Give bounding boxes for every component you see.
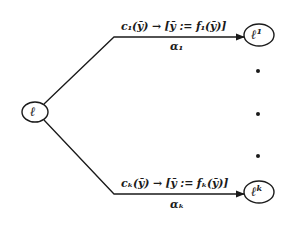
source-node-text: ℓ xyxy=(30,104,36,119)
ellipsis-dot xyxy=(256,69,260,73)
edge-alpha-1-name: α₁ xyxy=(170,41,183,52)
ellipsis-dot xyxy=(256,112,260,116)
target-node-k-label: ℓk xyxy=(251,184,262,198)
ellipsis-dot xyxy=(256,154,260,158)
edge-alpha-1 xyxy=(44,37,244,104)
edge-alpha-k-name: αₖ xyxy=(170,199,184,210)
target-node-1-label: ℓ1 xyxy=(251,27,262,41)
edge-alpha-k-guard: cₖ(ȳ) → [ȳ := fₖ(ȳ)] xyxy=(121,178,228,189)
target-node-1-superscript: 1 xyxy=(257,26,263,36)
source-node-label: ℓ xyxy=(30,105,36,118)
target-node-k-superscript: k xyxy=(257,183,263,193)
edge-alpha-1-guard: c₁(ȳ) → [ȳ := f₁(ȳ)] xyxy=(121,21,226,32)
